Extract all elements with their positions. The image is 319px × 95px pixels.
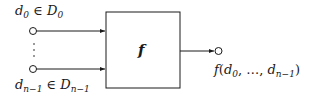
- input-set-index: 0: [57, 10, 63, 20]
- input-set: D: [60, 77, 70, 92]
- ellipsis-dot: [33, 43, 35, 45]
- output-last-var: d: [267, 62, 275, 77]
- output-last-index: n−1: [276, 69, 295, 79]
- close-paren: ): [295, 62, 300, 77]
- output-port-icon: [215, 48, 222, 55]
- input-set: D: [47, 3, 57, 18]
- input-port-0-icon: [30, 28, 37, 35]
- element-of-symbol: ∈: [33, 3, 43, 18]
- input-index: n−1: [23, 84, 42, 94]
- ellipsis-dot: [33, 49, 35, 51]
- output-label: f(d0, …, dn−1): [214, 63, 300, 79]
- input-label-0: d0 ∈ D0: [15, 4, 63, 20]
- output-first-var: d: [224, 62, 232, 77]
- ellipsis-dot: [33, 55, 35, 57]
- input-set-index: n−1: [71, 84, 90, 94]
- output-ellipsis: , …,: [238, 62, 268, 77]
- input-label-n-1: dn−1 ∈ Dn−1: [15, 78, 90, 94]
- input-index: 0: [23, 10, 29, 20]
- function-label: f: [138, 41, 144, 59]
- input-port-n-1-icon: [30, 66, 37, 73]
- element-of-symbol: ∈: [47, 77, 57, 92]
